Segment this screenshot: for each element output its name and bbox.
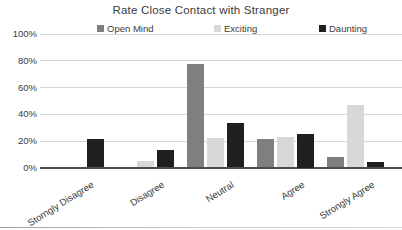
legend-label: Exciting — [224, 23, 257, 34]
legend-swatch-icon — [97, 25, 104, 32]
bar-exciting-strongly-agree — [347, 105, 364, 168]
bar-daunting-strongly-agree — [367, 162, 384, 167]
bar-open-mind-agree — [257, 139, 274, 167]
y-tick-label: 20% — [0, 135, 37, 146]
bar-daunting-agree — [297, 134, 314, 168]
bar-open-mind-strongly-agree — [327, 157, 344, 168]
x-tick-label: Disagree — [128, 179, 166, 208]
x-tick-label: Neutral — [204, 179, 236, 205]
y-tick-label: 80% — [0, 55, 37, 66]
chart-container: Rate Close Contact with Stranger Open Mi… — [0, 0, 402, 230]
bar-exciting-disagree — [137, 161, 154, 168]
x-tick-label: Storngly Disagree — [26, 179, 96, 228]
legend-item-open-mind: Open Mind — [95, 23, 155, 34]
bar-exciting-agree — [277, 137, 294, 168]
x-tick-label: Strongly Agree — [317, 179, 376, 221]
page-bottom-rule — [0, 227, 402, 228]
legend-swatch-icon — [319, 25, 326, 32]
x-tick-label: Agree — [279, 179, 306, 202]
chart-title: Rate Close Contact with Stranger — [0, 4, 402, 16]
gridline-60% — [40, 87, 402, 88]
legend-swatch-icon — [214, 25, 221, 32]
bar-daunting-storngly-disagree — [87, 139, 104, 167]
legend-label: Daunting — [329, 23, 367, 34]
bar-open-mind-neutral — [187, 64, 204, 167]
legend-item-exciting: Exciting — [212, 23, 259, 34]
gridline-80% — [40, 60, 402, 61]
legend-label: Open Mind — [107, 23, 153, 34]
y-tick-label: 100% — [0, 28, 37, 39]
y-tick-label: 0% — [0, 162, 37, 173]
y-tick-label: 40% — [0, 108, 37, 119]
bar-daunting-disagree — [157, 150, 174, 167]
legend-item-daunting: Daunting — [317, 23, 369, 34]
y-tick-label: 60% — [0, 82, 37, 93]
bar-daunting-neutral — [227, 123, 244, 167]
bar-exciting-neutral — [207, 138, 224, 167]
